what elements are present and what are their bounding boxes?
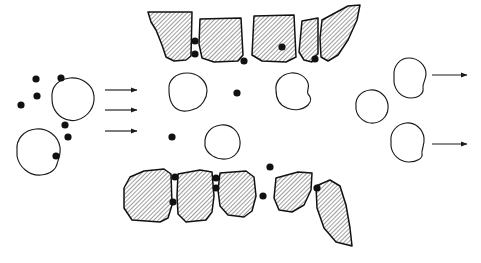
trapped-particle-top-gap1-upper [191,37,198,44]
blob-group [17,58,426,175]
inlet-particle-5 [61,121,68,128]
trapped-particle-bottom-gap2-lower [212,184,219,191]
outlet-blob-upper [394,58,426,98]
throat-blob-lower [205,125,240,159]
throat-particle-center [233,89,240,96]
lower-screen-block-1 [124,169,172,222]
trapped-particle-top-wedged [311,55,318,62]
trapped-particle-bottom-gap4 [259,192,266,199]
trapped-particle-top-gap2 [240,57,247,64]
throat-particle-left [168,133,175,140]
lower-screen-block-2 [177,170,214,222]
upper-screen-block-5 [320,5,360,61]
lower-screen-block-3 [218,171,256,217]
lower-screen-block-5 [316,180,352,246]
trapped-particle-bottom-gap3 [266,163,273,170]
figure-canvas [0,0,481,263]
trapped-particle-top-gap1-lower [191,50,198,57]
process-schematic-diagram [0,0,481,263]
outlet-blob-lower [391,123,424,162]
trapped-particle-bottom-gap1-lower [169,198,176,205]
throat-blob-upper-right [276,73,311,110]
inlet-blob-lower [17,129,60,175]
upper-screen-block-4 [299,18,318,62]
upper-screen-block-3 [252,15,296,62]
inlet-particle-6 [64,133,71,140]
inlet-particle-4 [17,101,24,108]
inlet-particle-2 [57,74,64,81]
inlet-particle-1 [32,75,39,82]
inlet-particle-7 [52,152,59,159]
outlet-blob-middle [356,90,388,123]
upper-screen-block-1 [148,12,192,61]
upper-screen-structure [148,5,360,62]
trapped-particle-top-gap3 [278,43,285,50]
upper-screen-block-2 [199,18,243,62]
lower-screen-block-4 [274,172,312,212]
inlet-particle-3 [33,92,40,99]
throat-blob-upper-left [169,73,207,111]
outlet-flow-arrow-group [432,75,467,144]
inlet-flow-arrow-group [105,90,137,131]
trapped-particle-bottom-gap1-upper [171,173,178,180]
trapped-particle-bottom-right [313,184,320,191]
lower-screen-structure [124,169,352,246]
inlet-blob-upper [52,78,94,121]
trapped-particle-bottom-gap2-upper [212,174,219,181]
